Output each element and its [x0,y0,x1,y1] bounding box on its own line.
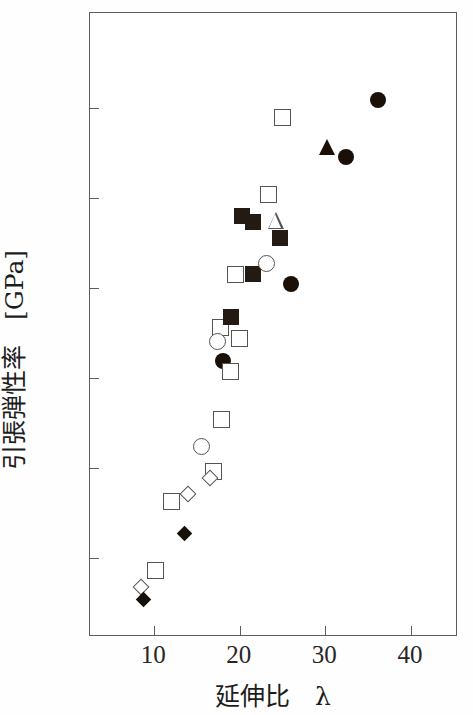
data-point-filled-square [245,214,261,230]
x-tick-30 [325,626,326,635]
y-tick-40 [90,288,99,289]
x-tick-20 [240,626,241,635]
y-tick-20 [90,468,99,469]
data-point-filled-circle [370,92,386,108]
data-point-open-square [274,109,291,126]
x-tick-label-20: 20 [209,642,269,667]
plot-frame [89,12,457,636]
chart-figure: 引張弾性率 [GPa] 10203040506010203040 延伸比 λ [0,0,473,715]
triangle-inner-fill [269,214,281,228]
data-point-open-square [163,493,180,510]
y-tick-10 [90,558,99,559]
x-tick-label-30: 30 [294,642,354,667]
data-point-open-circle [209,333,226,350]
plot-area [90,13,456,635]
data-point-filled-diamond [177,526,193,542]
x-axis-title: 延伸比 λ [89,676,457,712]
data-point-open-square [147,562,164,579]
data-point-open-square [260,186,277,203]
data-point-open-square [222,363,239,380]
x-tick-label-40: 40 [380,642,440,667]
data-point-open-diamond [179,485,196,502]
data-point-open-square [213,411,230,428]
y-tick-30 [90,378,99,379]
y-axis-title: 引張弾性率 [GPa] [0,200,30,520]
y-tick-50 [90,198,99,199]
y-tick-60 [90,108,99,109]
x-tick-40 [411,626,412,635]
data-point-filled-triangle [319,139,335,155]
x-tick-10 [154,626,155,635]
data-point-filled-circle [283,276,299,292]
x-tick-label-10: 10 [123,642,183,667]
data-point-filled-circle [338,149,354,165]
data-point-open-square [227,266,244,283]
data-point-open-triangle [268,212,284,229]
data-point-filled-square [223,309,239,325]
data-point-open-circle [258,255,275,272]
data-point-open-circle [193,438,210,455]
data-point-open-square [231,330,248,347]
data-point-filled-square [272,230,288,246]
